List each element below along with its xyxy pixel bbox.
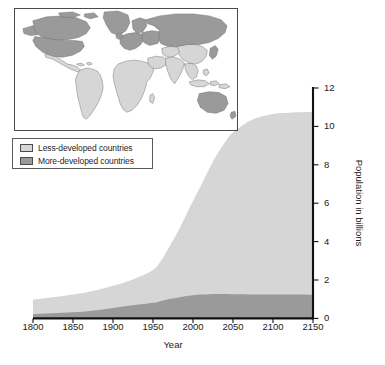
y-tick-label: 12 <box>324 83 335 93</box>
world-map-svg <box>15 9 237 130</box>
legend-item-less-developed: Less-developed countries <box>20 142 148 154</box>
dark-gray-swatch-icon <box>20 157 33 165</box>
x-tick-label: 1950 <box>142 322 163 332</box>
light-gray-swatch-icon <box>20 144 33 152</box>
y-axis-title: Population in billions <box>354 160 365 247</box>
y-tick-label: 4 <box>324 237 329 247</box>
chart-legend: Less-developed countries More-developed … <box>12 138 153 169</box>
x-tick-label: 2100 <box>262 322 283 332</box>
y-tick-label: 10 <box>324 121 335 131</box>
y-tick-label: 8 <box>324 160 329 170</box>
x-axis-title: Year <box>163 339 182 350</box>
legend-item-more-developed: More-developed countries <box>20 155 148 167</box>
population-growth-figure: Less-developed countries More-developed … <box>0 0 385 365</box>
legend-label-less-developed: Less-developed countries <box>38 143 132 153</box>
y-tick-label: 0 <box>324 313 329 323</box>
y-tick-label: 2 <box>324 275 329 285</box>
x-tick-label: 1850 <box>62 322 83 332</box>
x-tick-label: 2150 <box>302 322 323 332</box>
world-map-inset <box>14 8 238 131</box>
x-tick-label: 2000 <box>182 322 203 332</box>
y-tick-label: 6 <box>324 198 329 208</box>
legend-label-more-developed: More-developed countries <box>38 156 134 166</box>
x-tick-label: 1900 <box>102 322 123 332</box>
x-tick-label: 1800 <box>22 322 43 332</box>
x-tick-label: 2050 <box>222 322 243 332</box>
